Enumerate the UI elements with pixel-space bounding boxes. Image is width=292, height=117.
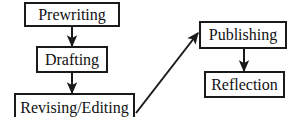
node-drafting: Drafting xyxy=(36,46,108,73)
node-prewriting: Prewriting xyxy=(24,2,120,27)
node-publishing-label: Publishing xyxy=(209,27,277,43)
node-reflection-label: Reflection xyxy=(211,77,278,93)
node-revising-editing-label: Revising/Editing xyxy=(20,100,128,116)
writing-process-flowchart: Prewriting Drafting Revising/Editing Pub… xyxy=(0,0,292,117)
node-prewriting-label: Prewriting xyxy=(38,7,106,23)
node-drafting-label: Drafting xyxy=(45,52,99,68)
node-reflection: Reflection xyxy=(204,71,285,98)
node-revising-editing: Revising/Editing xyxy=(14,93,135,117)
arrow-revising-to-publishing xyxy=(136,33,198,113)
node-publishing: Publishing xyxy=(199,21,287,49)
